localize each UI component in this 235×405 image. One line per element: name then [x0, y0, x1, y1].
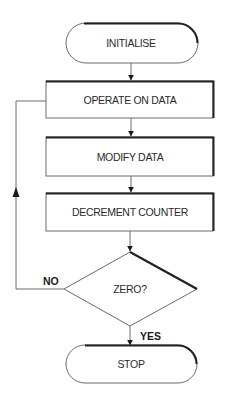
node-label: STOP	[117, 358, 144, 370]
node-label: MODIFY DATA	[97, 151, 164, 163]
flowchart: INITIALISE OPERATE ON DATA MODIFY DATA D…	[0, 0, 235, 405]
node-label: ZERO?	[113, 283, 147, 295]
node-modify-data: MODIFY DATA	[46, 137, 214, 176]
node-decrement-counter: DECREMENT COUNTER	[46, 193, 214, 231]
node-label: DECREMENT COUNTER	[72, 206, 189, 218]
edge-label-no: NO	[43, 275, 59, 287]
edge-label-yes: YES	[140, 330, 161, 342]
arrow-up-icon	[13, 187, 20, 197]
node-zero-decision: ZERO?	[64, 252, 197, 326]
node-label: OPERATE ON DATA	[84, 94, 177, 106]
node-label: INITIALISE	[106, 37, 156, 49]
node-operate-on-data: OPERATE ON DATA	[46, 81, 214, 118]
node-initialise: INITIALISE	[66, 23, 198, 63]
node-stop: STOP	[66, 345, 197, 383]
